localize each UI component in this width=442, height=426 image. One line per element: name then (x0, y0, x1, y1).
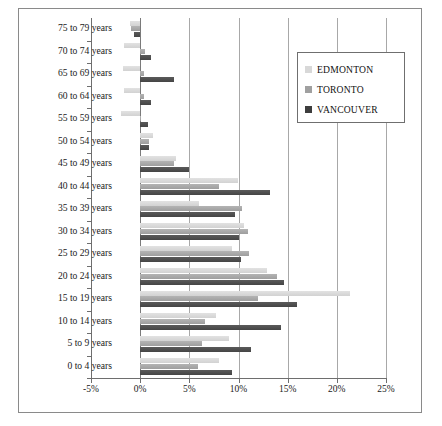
y-tick-8 (87, 221, 91, 222)
y-tick-0 (87, 41, 91, 42)
x-tick-0 (91, 378, 92, 383)
y-tick-2 (87, 86, 91, 87)
bar-vancouver-3 (140, 100, 151, 105)
bar-vancouver-15 (140, 370, 231, 375)
bar-toronto-7 (140, 184, 219, 189)
bar-toronto-10 (140, 251, 249, 256)
category-label-12: 15 to 19 years (0, 293, 112, 303)
bar-toronto-0 (131, 26, 140, 31)
bar-vancouver-11 (140, 280, 284, 285)
y-tick-4 (87, 131, 91, 132)
bar-vancouver-7 (140, 190, 270, 195)
bar-toronto-15 (140, 364, 198, 369)
bar-toronto-1 (140, 49, 145, 54)
x-tick-label-3: 10% (219, 384, 259, 394)
legend-swatch-edmonton (305, 66, 312, 73)
x-tick-label-5: 20% (317, 384, 357, 394)
bar-edmonton-3 (124, 88, 140, 93)
y-tick-9 (87, 243, 91, 244)
x-tick-label-0: -5% (71, 384, 111, 394)
x-tick-label-2: 5% (169, 384, 209, 394)
legend-item-toronto: TORONTO (305, 79, 404, 99)
y-tick-5 (87, 153, 91, 154)
category-label-2: 65 to 69 years (0, 68, 112, 78)
y-tick-14 (87, 356, 91, 357)
legend-label-edmonton: EDMONTON (317, 64, 373, 75)
bar-edmonton-5 (140, 133, 153, 138)
category-label-5: 50 to 54 years (0, 136, 112, 146)
bar-vancouver-1 (140, 55, 151, 60)
bar-toronto-12 (140, 296, 258, 301)
y-tick-7 (87, 198, 91, 199)
y-tick-10 (87, 266, 91, 267)
category-label-3: 60 to 64 years (0, 91, 112, 101)
bar-toronto-9 (140, 229, 248, 234)
bar-vancouver-13 (140, 325, 281, 330)
bar-edmonton-1 (124, 43, 140, 48)
legend-item-vancouver: VANCOUVER (305, 99, 404, 119)
category-label-9: 30 to 34 years (0, 226, 112, 236)
bar-toronto-6 (140, 161, 173, 166)
bar-edmonton-9 (140, 223, 244, 228)
y-tick-6 (87, 176, 91, 177)
legend-label-vancouver: VANCOUVER (317, 104, 378, 115)
y-tick-13 (87, 333, 91, 334)
bar-toronto-5 (140, 139, 149, 144)
bar-toronto-4 (140, 116, 141, 121)
bar-vancouver-12 (140, 302, 297, 307)
bar-vancouver-6 (140, 167, 189, 172)
x-tick-2 (189, 378, 190, 383)
bar-vancouver-10 (140, 257, 241, 262)
x-tick-6 (386, 378, 387, 383)
chart-container: EDMONTON TORONTO VANCOUVER -5%0%5%10%15%… (0, 0, 442, 426)
bar-edmonton-10 (140, 246, 231, 251)
bar-edmonton-0 (130, 21, 140, 26)
chart-legend: EDMONTON TORONTO VANCOUVER (297, 52, 405, 123)
bar-edmonton-12 (140, 291, 349, 296)
bar-toronto-8 (140, 206, 242, 211)
category-label-0: 75 to 79 years (0, 23, 112, 33)
y-tick-1 (87, 63, 91, 64)
x-tick-label-4: 15% (268, 384, 308, 394)
bar-vancouver-4 (140, 122, 148, 127)
category-label-8: 35 to 39 years (0, 203, 112, 213)
x-tick-1 (140, 378, 141, 383)
category-label-15: 0 to 4 years (0, 361, 112, 371)
bar-edmonton-2 (123, 66, 140, 71)
x-tick-3 (239, 378, 240, 383)
y-tick-15 (87, 378, 91, 379)
bar-vancouver-2 (140, 77, 173, 82)
category-label-11: 20 to 24 years (0, 271, 112, 281)
bar-vancouver-8 (140, 212, 234, 217)
bar-toronto-14 (140, 341, 202, 346)
legend-swatch-vancouver (305, 106, 312, 113)
category-label-4: 55 to 59 years (0, 113, 112, 123)
category-label-14: 5 to 9 years (0, 338, 112, 348)
legend-item-edmonton: EDMONTON (305, 59, 404, 79)
x-tick-4 (288, 378, 289, 383)
bar-vancouver-14 (140, 347, 251, 352)
category-label-1: 70 to 74 years (0, 46, 112, 56)
bar-edmonton-14 (140, 336, 229, 341)
category-label-6: 45 to 49 years (0, 158, 112, 168)
gridline-15 (288, 18, 289, 378)
bar-edmonton-15 (140, 358, 219, 363)
x-tick-label-1: 0% (120, 384, 160, 394)
category-label-13: 10 to 14 years (0, 316, 112, 326)
bar-toronto-11 (140, 274, 277, 279)
bar-edmonton-11 (140, 268, 267, 273)
x-tick-5 (337, 378, 338, 383)
category-label-10: 25 to 29 years (0, 248, 112, 258)
bar-edmonton-8 (140, 201, 199, 206)
category-label-7: 40 to 44 years (0, 181, 112, 191)
y-tick-11 (87, 288, 91, 289)
y-tick-12 (87, 311, 91, 312)
bar-edmonton-7 (140, 178, 237, 183)
x-tick-label-6: 25% (366, 384, 406, 394)
bar-vancouver-5 (140, 145, 149, 150)
bar-toronto-3 (140, 94, 144, 99)
bar-edmonton-4 (121, 111, 141, 116)
bar-toronto-13 (140, 319, 205, 324)
legend-swatch-toronto (305, 86, 312, 93)
bar-edmonton-6 (140, 156, 175, 161)
